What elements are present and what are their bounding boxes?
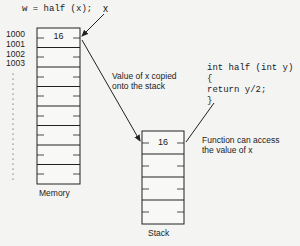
copy-annotation: Value of x copied onto the stack <box>112 71 177 91</box>
x-pointer-arrow <box>82 14 104 36</box>
access-annotation: Function can access the value of x <box>202 135 279 155</box>
stack-label: Stack <box>148 228 169 238</box>
function-code: int half (int y) { return y/2; } <box>207 63 293 107</box>
memory-label: Memory <box>39 188 70 198</box>
stack-cell-value: 16 <box>142 137 184 147</box>
memory-continuation-dots <box>12 73 13 179</box>
memory-block <box>37 28 80 184</box>
memory-cell-value: 16 <box>37 31 80 41</box>
